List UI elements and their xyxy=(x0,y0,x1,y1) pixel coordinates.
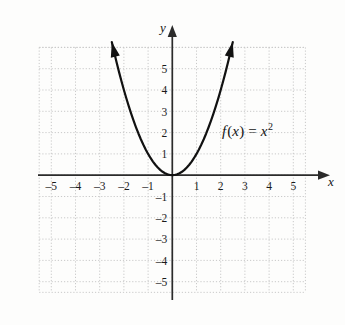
x-tick-label: –4 xyxy=(69,180,82,192)
y-tick-label: 4 xyxy=(162,84,168,96)
y-tick-label: 5 xyxy=(162,63,168,75)
x-tick-label: 2 xyxy=(218,180,224,192)
function-base: x xyxy=(260,123,268,139)
y-tick-label: 2 xyxy=(162,127,168,139)
y-tick-label: –3 xyxy=(155,233,168,245)
x-tick-label: –5 xyxy=(45,180,58,192)
y-tick-label: 1 xyxy=(162,148,168,160)
x-tick-label: –3 xyxy=(93,180,106,192)
x-tick-label: –2 xyxy=(117,180,130,192)
function-exponent: 2 xyxy=(268,121,273,132)
function-annotation: f(x)=x2 xyxy=(222,121,273,140)
function-close-paren: ) xyxy=(239,123,244,140)
y-tick-label: –2 xyxy=(155,212,168,224)
x-tick-label: 3 xyxy=(242,180,248,192)
parabola-figure: –5–4–3–2–11234554321–1–2–3–4–5 x y f(x)=… xyxy=(0,0,345,325)
function-equals: = xyxy=(248,123,256,139)
y-tick-label: 3 xyxy=(162,106,168,118)
x-tick-label: 1 xyxy=(194,180,200,192)
x-axis-label: x xyxy=(327,174,334,189)
y-axis-label: y xyxy=(158,20,166,35)
function-variable: x xyxy=(231,123,239,139)
graph-canvas: –5–4–3–2–11234554321–1–2–3–4–5 x y f(x)=… xyxy=(0,0,345,325)
function-label: f(x)=x2 xyxy=(222,121,273,140)
y-tick-label: –1 xyxy=(155,191,168,203)
x-tick-label: –1 xyxy=(141,180,154,192)
x-tick-label: 4 xyxy=(266,180,272,192)
x-tick-label: 5 xyxy=(290,180,296,192)
y-tick-label: –5 xyxy=(155,276,168,288)
y-tick-label: –4 xyxy=(155,255,168,267)
